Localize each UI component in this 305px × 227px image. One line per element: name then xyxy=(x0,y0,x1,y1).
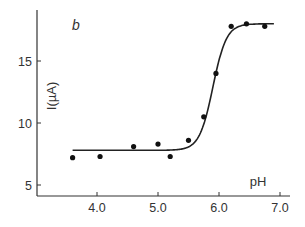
axes xyxy=(37,10,290,196)
panel-label: b xyxy=(72,17,80,33)
x-tick-label: 4.0 xyxy=(88,201,105,215)
data-point xyxy=(70,155,75,160)
y-tick-label: 5 xyxy=(25,179,32,193)
y-axis-label: I(µA) xyxy=(44,82,59,110)
y-tick-label: 10 xyxy=(18,117,32,131)
fit-curve xyxy=(73,24,274,151)
data-point xyxy=(201,114,206,119)
data-point xyxy=(213,71,218,76)
data-point xyxy=(229,24,234,29)
x-tick-label: 6.0 xyxy=(210,201,227,215)
data-point xyxy=(131,144,136,149)
data-point xyxy=(97,154,102,159)
x-axis-label: pH xyxy=(250,174,267,189)
data-point xyxy=(155,141,160,146)
y-tick-label: 15 xyxy=(18,55,32,69)
data-point xyxy=(168,154,173,159)
data-point xyxy=(186,138,191,143)
labels: 510154.05.06.07.0pHI(µA)b xyxy=(18,17,289,215)
data-points xyxy=(70,21,267,160)
x-tick-label: 7.0 xyxy=(271,201,288,215)
data-point xyxy=(262,24,267,29)
titration-chart: 510154.05.06.07.0pHI(µA)b xyxy=(0,0,305,227)
x-tick-label: 5.0 xyxy=(149,201,166,215)
data-point xyxy=(244,21,249,26)
